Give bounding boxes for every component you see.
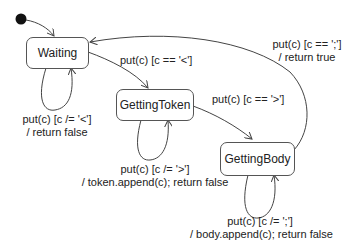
transition-guard: put(c) [c == '>'] xyxy=(212,93,284,106)
transition-guard: put(c) [c /= ';'] xyxy=(190,215,330,228)
transition-guard: put(c) [c == ';'] xyxy=(262,38,350,51)
state-waiting-label: Waiting xyxy=(38,46,78,60)
transition-label-gettingtoken-self: put(c) [c /= '>'] / token.append(c); ret… xyxy=(80,163,230,189)
transition-action: / token.append(c); return false xyxy=(80,176,230,189)
state-getting-body-label: GettingBody xyxy=(224,152,290,166)
transition-guard: put(c) [c /= '<'] xyxy=(12,113,102,126)
state-waiting: Waiting xyxy=(26,37,89,69)
transition-label-waiting-to-gettingtoken: put(c) [c == '<'] xyxy=(120,54,192,67)
waiting-self-loop-arrow xyxy=(41,68,72,110)
initial-transition-arrow xyxy=(26,20,54,36)
transition-guard: put(c) [c /= '>'] xyxy=(80,163,230,176)
state-getting-body: GettingBody xyxy=(220,142,295,176)
transition-label-gettingbody-to-waiting: put(c) [c == ';'] / return true xyxy=(262,38,350,64)
transition-action: / return false xyxy=(12,126,102,139)
gettingtoken-self-loop-arrow xyxy=(138,120,169,160)
gettingtoken-to-gettingbody-arrow xyxy=(193,106,252,139)
transition-action: / return true xyxy=(262,51,350,64)
transition-guard: put(c) [c == '<'] xyxy=(120,54,192,67)
state-getting-token: GettingToken xyxy=(116,89,194,121)
gettingbody-self-loop-arrow xyxy=(245,175,275,218)
transition-label-gettingtoken-to-gettingbody: put(c) [c == '>'] xyxy=(212,93,284,106)
state-getting-token-label: GettingToken xyxy=(120,98,191,112)
transition-action: / body.append(c); return false xyxy=(190,228,330,241)
initial-state-dot xyxy=(16,14,27,25)
transition-label-gettingbody-self: put(c) [c /= ';'] / body.append(c); retu… xyxy=(190,215,330,241)
transition-label-waiting-self: put(c) [c /= '<'] / return false xyxy=(12,113,102,139)
